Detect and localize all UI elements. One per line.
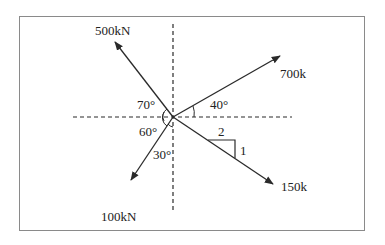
angle-arc-40: [193, 106, 194, 117]
slope-rise-label: 1: [240, 143, 247, 158]
force-diagram: 500kN 700k 150k 100kN 70° 40° 60° 30° 2 …: [0, 0, 385, 245]
slope-run-label: 2: [218, 124, 225, 139]
force-700k-label: 700k: [280, 66, 307, 81]
force-500kn-label: 500kN: [95, 23, 131, 38]
frame-border: [20, 17, 365, 231]
angle-arc-70: [163, 109, 167, 121]
force-100kn-label: 100kN: [101, 209, 137, 224]
angle-arc-30: [168, 124, 173, 127]
angle-70-label: 70°: [137, 97, 155, 112]
angle-60-label: 60°: [139, 124, 157, 139]
angle-40-label: 40°: [210, 97, 228, 112]
angle-30-label: 30°: [153, 147, 171, 162]
force-150k-label: 150k: [281, 179, 308, 194]
